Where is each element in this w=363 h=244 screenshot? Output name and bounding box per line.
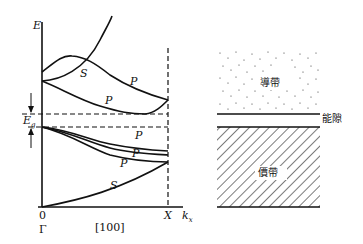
band-diagram-svg <box>0 0 363 244</box>
s-upper-label: S <box>80 68 88 79</box>
k-axis-label: kx <box>182 210 193 224</box>
p-lower-label-2: P <box>132 148 139 159</box>
x-point-label: X <box>164 210 172 221</box>
s-band-upper <box>42 16 112 81</box>
energy-axis-label: E <box>33 20 41 31</box>
band-structure-plot <box>22 16 183 207</box>
p-upper-label-1: P <box>130 76 137 87</box>
gap-energy-label: Eg <box>23 115 36 129</box>
gamma-label: Γ <box>39 224 47 235</box>
s-lower-label: S <box>110 180 118 191</box>
direction-label: [100] <box>95 222 125 233</box>
origin-label: 0 <box>39 210 46 221</box>
valence-band-label: 價帶 <box>258 168 278 178</box>
band-schematic <box>217 51 320 207</box>
s-valence <box>42 162 168 207</box>
p-lower-label-3: P <box>120 158 127 169</box>
conduction-band-label: 導帶 <box>260 78 280 88</box>
gap-label-main: E <box>23 114 31 127</box>
k-label-main: k <box>182 209 189 222</box>
gap-label-sub: g <box>31 121 35 129</box>
p-upper-label-2: P <box>105 95 112 106</box>
p-valence-2 <box>42 127 168 155</box>
gap-label: 能隙 <box>322 114 342 124</box>
p-lower-label-1: P <box>135 130 142 141</box>
k-label-sub: x <box>189 216 193 224</box>
